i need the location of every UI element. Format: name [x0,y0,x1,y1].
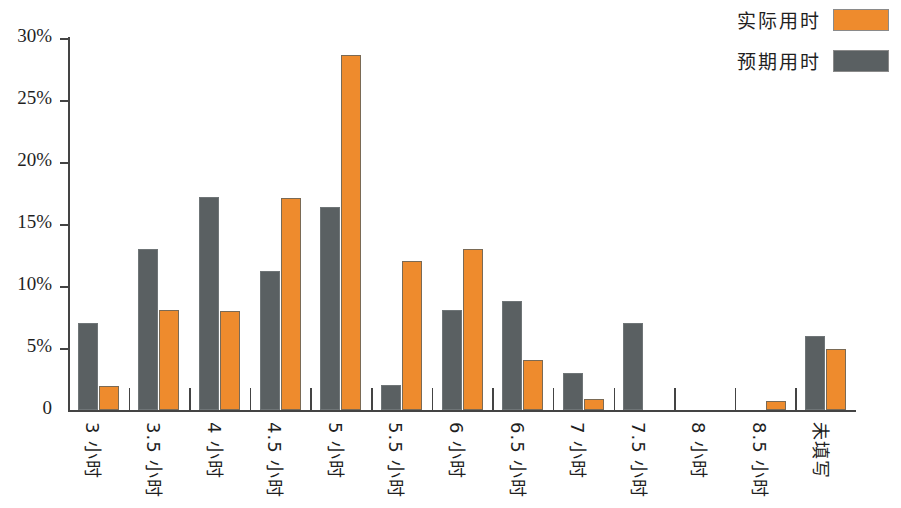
bar-actual [523,360,543,410]
x-axis-tick [189,388,191,410]
x-axis-tick [674,388,676,410]
y-axis-tick-label: 0 [0,397,52,419]
x-axis-category-label: 5.5 小时 [384,422,410,498]
bar-expected [442,310,462,410]
bar-actual [766,401,786,410]
bar-chart: 实际用时 预期用时 05%10%15%20%25%30%3 小时3.5 小时4 … [0,0,901,508]
bar-actual [402,261,422,410]
y-axis-tick-label: 15% [0,211,52,233]
x-axis-tick [553,388,555,410]
x-axis-tick [129,388,131,410]
x-axis-tick [371,388,373,410]
x-axis-category-label: 8 小时 [687,422,713,479]
legend-label-expected: 预期用时 [737,47,821,74]
x-axis-tick [310,388,312,410]
bar-expected [623,323,643,410]
y-axis-tick-label: 10% [0,273,52,295]
bar-expected [78,323,98,410]
y-axis-tick-label: 20% [0,149,52,171]
x-axis-category-label: 6.5 小时 [506,422,532,498]
x-axis-category-label: 3 小时 [81,422,107,479]
bar-expected [381,385,401,410]
bar-actual [826,349,846,410]
y-axis-tick [60,38,69,40]
x-axis-tick [614,388,616,410]
x-axis-tick [735,388,737,410]
x-axis-category-label: 5 小时 [324,422,350,479]
x-axis-category-label: 7 小时 [566,422,592,479]
bar-expected [138,249,158,410]
bar-expected [260,271,280,410]
bar-actual [159,310,179,410]
y-axis-tick [60,348,69,350]
bar-actual [281,198,301,410]
x-axis-category-label: 8.5 小时 [748,422,774,498]
x-axis-category-label: 6 小时 [445,422,471,479]
legend-swatch-actual [833,9,889,31]
chart-legend: 实际用时 预期用时 [737,6,889,74]
bar-expected [320,207,340,410]
legend-swatch-expected [833,50,889,72]
bar-expected [199,197,219,410]
x-axis-tick [432,388,434,410]
x-axis-category-label: 4.5 小时 [263,422,289,498]
y-axis-tick-label: 5% [0,335,52,357]
bar-actual [584,399,604,410]
legend-label-actual: 实际用时 [737,6,821,33]
bar-expected [805,336,825,410]
bar-actual [220,311,240,410]
y-axis-tick-label: 30% [0,25,52,47]
y-axis-tick [60,286,69,288]
bar-actual [99,386,119,410]
x-axis-tick [250,388,252,410]
x-axis-tick [492,388,494,410]
y-axis-tick [60,162,69,164]
bar-actual [341,55,361,410]
y-axis-tick [60,100,69,102]
bar-expected [563,373,583,410]
y-axis-tick [60,224,69,226]
bar-actual [463,249,483,410]
legend-item-expected: 预期用时 [737,47,889,74]
x-axis-category-label: 7.5 小时 [627,422,653,498]
x-axis-line [68,410,856,412]
y-axis-tick-label: 25% [0,87,52,109]
x-axis-category-label: 4 小时 [203,422,229,479]
legend-item-actual: 实际用时 [737,6,889,33]
bar-expected [502,301,522,410]
x-axis-category-label: 未填写 [809,422,835,479]
x-axis-tick [795,388,797,410]
x-axis-category-label: 3.5 小时 [142,422,168,498]
